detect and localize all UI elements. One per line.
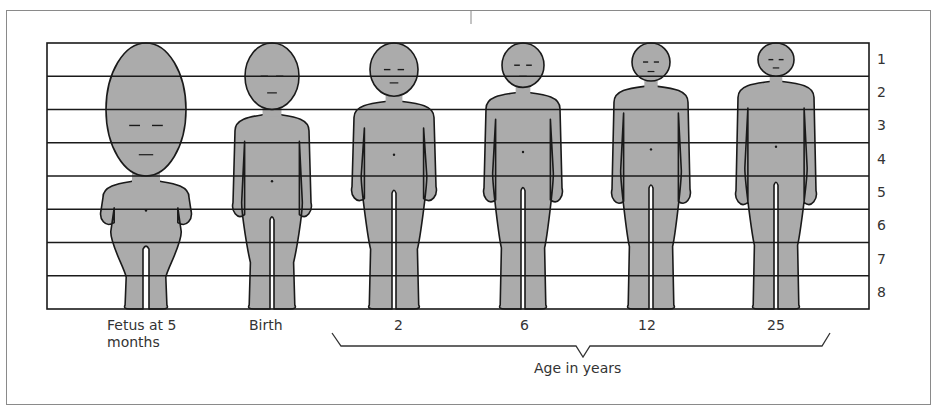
label-age-12: 12 [638, 317, 656, 334]
body-age6 [484, 93, 563, 309]
navel [650, 148, 652, 150]
bracket-label: Age in years [534, 360, 621, 377]
head-age25 [758, 43, 794, 76]
head-age12 [632, 43, 670, 81]
label-age-6: 6 [520, 317, 529, 334]
scale-label-6: 6 [877, 217, 886, 233]
label-fetus-line2: months [107, 334, 176, 351]
scale-label-3: 3 [877, 117, 886, 133]
body-age25 [736, 82, 817, 309]
label-age-2: 2 [394, 317, 403, 334]
body-fetus [101, 181, 192, 309]
navel [775, 146, 777, 148]
navel [271, 180, 273, 182]
scale-label-7: 7 [877, 251, 886, 267]
label-age-25: 25 [767, 317, 785, 334]
head-age2 [370, 43, 418, 96]
body-age2 [352, 102, 437, 309]
head-age6 [502, 43, 544, 87]
label-fetus-line1: Fetus at 5 [107, 317, 176, 334]
scale-label-1: 1 [877, 51, 886, 67]
scale-label-5: 5 [877, 184, 886, 200]
label-birth: Birth [249, 317, 283, 334]
scale-label-8: 8 [877, 284, 886, 300]
scale-label-2: 2 [877, 84, 886, 100]
navel [393, 154, 395, 156]
label-fetus: Fetus at 5 months [107, 317, 176, 351]
navel [522, 151, 524, 153]
body-birth [233, 115, 312, 309]
proportion-diagram [0, 0, 943, 417]
scale-label-4: 4 [877, 151, 886, 167]
age-bracket [332, 333, 830, 357]
